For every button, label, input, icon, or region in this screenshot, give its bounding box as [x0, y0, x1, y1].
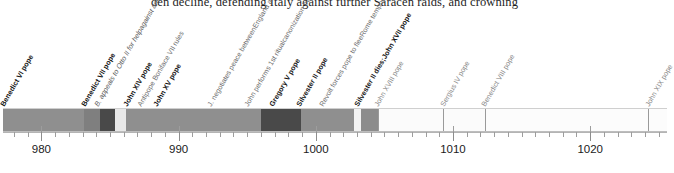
axis-tick-minor — [480, 132, 481, 137]
axis-tick-minor — [576, 132, 577, 137]
timeline-segment[interactable] — [126, 109, 260, 131]
axis-tick-minor — [659, 132, 660, 137]
axis-tick-minor — [535, 132, 536, 137]
axis-tick-connector — [179, 126, 180, 132]
axis-tick-minor — [83, 132, 84, 137]
axis-tick-minor — [55, 132, 56, 137]
axis-line — [3, 132, 667, 133]
axis-tick-connector — [41, 126, 42, 132]
axis-tick-minor — [467, 132, 468, 137]
axis-tick-minor — [28, 132, 29, 137]
axis-tick-label: 980 — [32, 143, 51, 155]
timeline-segment[interactable] — [301, 109, 355, 131]
axis-tick-label: 1000 — [303, 143, 329, 155]
axis-tick-minor — [151, 132, 152, 137]
axis-tick-minor — [412, 132, 413, 137]
axis-tick-minor — [288, 132, 289, 137]
timeline-bar[interactable] — [3, 108, 667, 132]
axis-tick-minor — [14, 132, 15, 137]
axis-tick-major — [316, 132, 317, 141]
timeline-segment[interactable] — [354, 109, 361, 131]
axis-tick-minor — [522, 132, 523, 137]
axis-tick-minor — [192, 132, 193, 137]
axis-tick-minor — [645, 132, 646, 137]
timeline-event-label: John XIX pope — [557, 13, 674, 108]
axis-tick-minor — [220, 132, 221, 137]
axis-tick-minor — [426, 132, 427, 137]
axis-tick-minor — [604, 132, 605, 137]
axis-tick-minor — [124, 132, 125, 137]
axis-tick-minor — [206, 132, 207, 137]
axis-tick-major — [590, 132, 591, 141]
timeline-event-labels: Benedict VI popeBenedict VII popeB. appe… — [0, 0, 669, 108]
timeline-segment[interactable] — [84, 109, 100, 131]
timeline-segment-divider — [648, 109, 649, 131]
axis-tick-major — [179, 132, 180, 141]
axis-tick-minor — [371, 132, 372, 137]
axis-tick-minor — [508, 132, 509, 137]
axis-tick-minor — [137, 132, 138, 137]
timeline-segment[interactable] — [648, 109, 667, 131]
axis-tick-minor — [165, 132, 166, 137]
axis-tick-minor — [233, 132, 234, 137]
timeline-segment[interactable] — [485, 109, 648, 131]
timeline-event-label: Benedict VIII pope — [394, 3, 517, 108]
axis-tick-minor — [261, 132, 262, 137]
timeline-segment-divider — [443, 109, 444, 131]
axis-tick-label: 990 — [169, 143, 188, 155]
axis-tick-minor — [631, 132, 632, 137]
axis-tick-minor — [618, 132, 619, 137]
axis-tick-minor — [69, 132, 70, 137]
axis-tick-connector — [316, 126, 317, 132]
timeline-segment[interactable] — [100, 109, 115, 131]
timeline-segment[interactable] — [378, 109, 444, 131]
axis-tick-minor — [439, 132, 440, 137]
axis-tick-connector — [453, 126, 454, 132]
axis-tick-connector — [590, 126, 591, 132]
timeline-segment[interactable] — [361, 109, 377, 131]
axis-tick-major — [453, 132, 454, 141]
axis-tick-minor — [549, 132, 550, 137]
timeline-segment-divider — [378, 109, 379, 131]
timeline-segment[interactable] — [443, 109, 484, 131]
axis-tick-minor — [302, 132, 303, 137]
axis-tick-minor — [494, 132, 495, 137]
axis-tick-major — [41, 132, 42, 141]
axis-tick-minor — [563, 132, 564, 137]
axis-tick-minor — [398, 132, 399, 137]
timeline-segment[interactable] — [115, 109, 126, 131]
timeline-segment[interactable] — [261, 109, 301, 131]
axis-tick-minor — [110, 132, 111, 137]
axis-tick-minor — [247, 132, 248, 137]
axis-tick-minor — [275, 132, 276, 137]
axis-tick-label: 1020 — [577, 143, 603, 155]
axis-tick-minor — [343, 132, 344, 137]
axis-tick-minor — [357, 132, 358, 137]
axis-tick-minor — [96, 132, 97, 137]
timeline-segment-divider — [485, 109, 486, 131]
axis-tick-minor — [330, 132, 331, 137]
timeline-segment[interactable] — [3, 109, 84, 131]
axis-tick-minor — [384, 132, 385, 137]
axis-tick-label: 1010 — [440, 143, 466, 155]
timeline-axis: 980990100010101020 — [3, 132, 667, 173]
